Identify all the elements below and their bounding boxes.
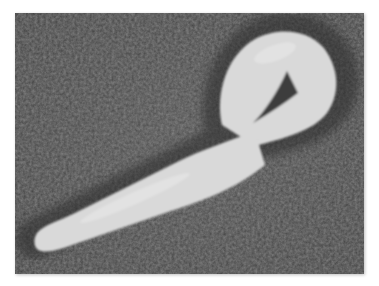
micrograph-image: [15, 13, 364, 274]
micrograph-frame: [15, 13, 364, 274]
